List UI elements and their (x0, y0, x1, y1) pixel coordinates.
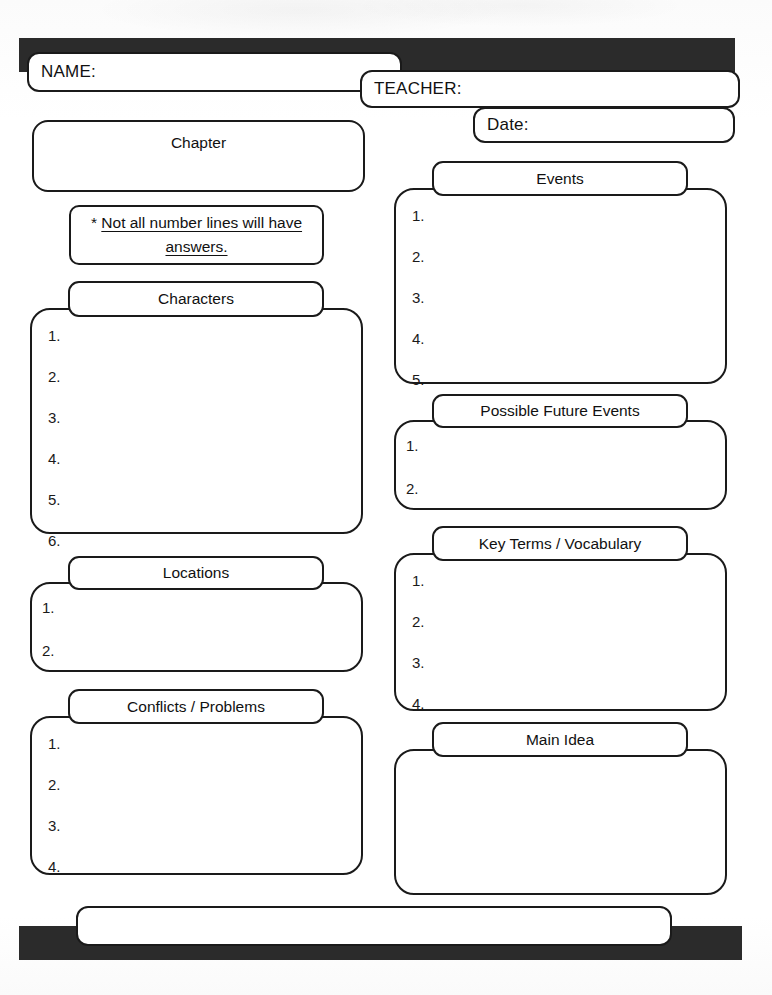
teacher-field[interactable]: TEACHER: (360, 70, 740, 108)
future-events-header: Possible Future Events (432, 394, 688, 428)
note-text: Not all number lines will have answers. (101, 214, 302, 255)
characters-header: Characters (68, 281, 324, 317)
locations-lines: 1. 2. (42, 600, 353, 658)
future-events-title: Possible Future Events (480, 402, 639, 420)
list-item[interactable]: 6. (48, 533, 353, 548)
events-lines: 1. 2. 3. 4. 5. (412, 208, 717, 387)
list-item[interactable]: 2. (48, 777, 353, 792)
list-item[interactable]: 4. (412, 696, 717, 711)
list-item[interactable]: 3. (412, 290, 717, 305)
list-item[interactable]: 2. (406, 481, 717, 496)
key-terms-header: Key Terms / Vocabulary (432, 526, 688, 561)
date-label: Date: (487, 115, 529, 135)
list-item[interactable]: 5. (48, 492, 353, 507)
date-field[interactable]: Date: (473, 107, 735, 143)
chapter-label: Chapter (171, 134, 226, 152)
list-item[interactable]: 2. (412, 614, 717, 629)
list-item[interactable]: 4. (48, 859, 353, 874)
section-locations: Locations 1. 2. (30, 556, 363, 672)
list-item[interactable]: 4. (48, 451, 353, 466)
future-events-lines: 1. 2. (406, 438, 717, 496)
chapter-box[interactable]: Chapter (32, 120, 365, 192)
list-item[interactable]: 2. (412, 249, 717, 264)
main-idea-header: Main Idea (432, 722, 688, 757)
list-item[interactable]: 3. (48, 410, 353, 425)
worksheet-page: NAME: TEACHER: Date: Chapter * Not all n… (0, 0, 772, 995)
list-item[interactable]: 1. (412, 573, 717, 588)
key-terms-lines: 1. 2. 3. 4. (412, 573, 717, 711)
section-main-idea: Main Idea (394, 722, 727, 895)
events-header: Events (432, 161, 688, 196)
list-item[interactable]: 3. (48, 818, 353, 833)
list-item[interactable]: 3. (412, 655, 717, 670)
list-item[interactable]: 1. (48, 736, 353, 751)
main-idea-title: Main Idea (526, 731, 594, 749)
key-terms-title: Key Terms / Vocabulary (479, 535, 642, 553)
main-idea-body[interactable] (394, 749, 727, 895)
list-item[interactable]: 1. (412, 208, 717, 223)
list-item[interactable]: 1. (406, 438, 717, 453)
list-item[interactable]: 1. (48, 328, 353, 343)
list-item[interactable]: 5. (412, 372, 717, 387)
locations-header: Locations (68, 556, 324, 590)
section-future-events: Possible Future Events 1. 2. (394, 394, 727, 510)
name-field[interactable]: NAME: (27, 52, 402, 92)
list-item[interactable]: 2. (42, 643, 353, 658)
conflicts-title: Conflicts / Problems (127, 698, 265, 716)
teacher-label: TEACHER: (374, 79, 462, 99)
note-bullet: * (91, 214, 97, 231)
events-title: Events (536, 170, 583, 188)
characters-title: Characters (158, 290, 234, 308)
characters-lines: 1. 2. 3. 4. 5. 6. (48, 328, 353, 548)
list-item[interactable]: 4. (412, 331, 717, 346)
list-item[interactable]: 2. (48, 369, 353, 384)
section-events: Events 1. 2. 3. 4. 5. (394, 161, 727, 384)
section-key-terms: Key Terms / Vocabulary 1. 2. 3. 4. (394, 526, 727, 711)
section-conflicts: Conflicts / Problems 1. 2. 3. 4. (30, 689, 363, 875)
name-label: NAME: (41, 62, 96, 82)
note-callout: * Not all number lines will have answers… (69, 205, 324, 265)
conflicts-header: Conflicts / Problems (68, 689, 324, 724)
list-item[interactable]: 1. (42, 600, 353, 615)
locations-title: Locations (163, 564, 229, 582)
footer-note-field[interactable] (76, 906, 672, 946)
conflicts-lines: 1. 2. 3. 4. (48, 736, 353, 874)
section-characters: Characters 1. 2. 3. 4. 5. 6. (30, 281, 363, 534)
